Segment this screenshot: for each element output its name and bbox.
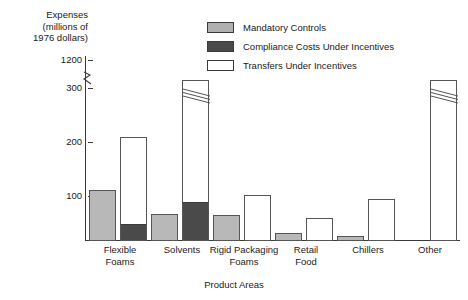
bar-transfers — [244, 195, 271, 241]
y-tick-label-200: 200 — [42, 136, 82, 147]
bar-group — [89, 40, 151, 241]
bar-mandatory-controls — [89, 190, 116, 241]
bar-group — [213, 40, 275, 241]
bar-group — [337, 40, 399, 241]
x-axis-title: Product Areas — [0, 279, 468, 290]
bar-group — [399, 40, 461, 241]
bar-chart: Expenses (millions of 1976 dollars) 1200… — [0, 0, 468, 300]
bar-mandatory-controls — [275, 233, 302, 241]
bar-segment-compliance-costs — [121, 224, 146, 240]
bar-segment-compliance-costs — [183, 202, 208, 240]
x-axis-label: Other — [385, 244, 468, 256]
bar-break-icon — [183, 87, 210, 105]
legend-label-mandatory-controls: Mandatory Controls — [243, 22, 326, 33]
plot-area — [85, 40, 460, 241]
bar-transfers — [306, 218, 333, 241]
bar-transfers — [120, 137, 147, 241]
bar-group — [275, 40, 337, 241]
bar-break-icon — [431, 87, 458, 105]
mandatory-swatch — [207, 22, 234, 33]
bar-mandatory-controls — [213, 215, 240, 241]
bar-transfers — [368, 199, 395, 241]
bar-mandatory-controls — [151, 214, 178, 241]
bar-transfers-truncated — [430, 80, 457, 241]
y-tick-label-1200: 1200 — [42, 54, 82, 65]
y-axis-title: Expenses (millions of 1976 dollars) — [14, 9, 88, 44]
y-tick-label-300: 300 — [42, 82, 82, 93]
bar-group — [151, 40, 213, 241]
legend-item-mandatory-controls: Mandatory Controls — [207, 20, 394, 35]
y-tick-label-100: 100 — [42, 190, 82, 201]
bar-transfers-truncated — [182, 80, 209, 241]
bar-mandatory-controls — [337, 236, 364, 241]
